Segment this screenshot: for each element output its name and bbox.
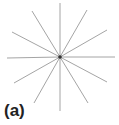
ray-line-4	[60, 57, 107, 82]
radial-star-figure: (a)	[0, 0, 119, 125]
ray-line-9	[7, 57, 60, 58]
ray-line-2	[60, 30, 107, 57]
figure-label: (a)	[4, 101, 25, 121]
ray-line-1	[60, 10, 87, 57]
center-point	[58, 55, 62, 59]
ray-line-5	[60, 57, 88, 103]
